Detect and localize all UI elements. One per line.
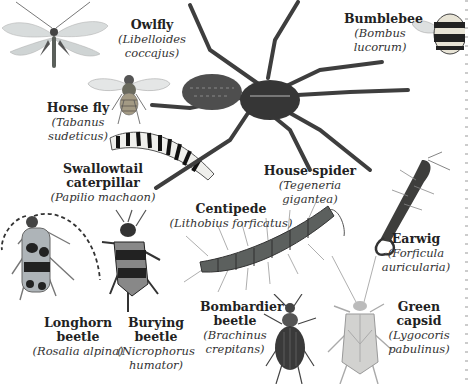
scientific-name: auricularia) <box>376 260 456 274</box>
scientific-name: lucorum) <box>344 40 416 54</box>
common-name: Bumblebee <box>344 12 416 26</box>
scientific-name: (Papilio machaon) <box>28 190 178 204</box>
common-name: Earwig <box>376 232 456 246</box>
scientific-name: humator) <box>116 358 196 372</box>
scientific-name: (Nicrophorus <box>116 344 196 358</box>
burying-beetle-illustration <box>96 204 176 314</box>
common-name: Horse fly <box>38 101 118 115</box>
label-house-spider: House spider (Tegeneria gigantea) <box>250 164 370 206</box>
label-green-capsid: Green capsid (Lygocoris pabulinus) <box>374 300 464 356</box>
scientific-name: (Bombus <box>344 26 416 40</box>
label-swallowtail: Swallowtail caterpillar (Papilio machaon… <box>28 162 178 204</box>
common-name: Bombardier <box>200 300 270 314</box>
scientific-name: (Brachinus <box>200 328 270 342</box>
label-owlfly: Owlfly (Libelloides coccajus) <box>112 18 192 60</box>
label-bombardier-beetle: Bombardier beetle (Brachinus crepitans) <box>200 300 270 356</box>
label-burying-beetle: Burying beetle (Nicrophorus humator) <box>116 316 196 372</box>
common-name: beetle <box>200 314 270 328</box>
label-bumblebee: Bumblebee (Bombus lucorum) <box>344 12 416 54</box>
scientific-name: (Libelloides <box>112 32 192 46</box>
scientific-name: coccajus) <box>112 46 192 60</box>
longhorn-beetle-illustration <box>0 200 104 310</box>
scientific-name: pabulinus) <box>374 342 464 356</box>
scientific-name: sudeticus) <box>38 129 118 143</box>
scientific-name: (Lygocoris <box>374 328 464 342</box>
label-earwig: Earwig (Forficula auricularia) <box>376 232 456 274</box>
scientific-name: (Forficula <box>376 246 456 260</box>
common-name: Burying beetle <box>116 316 196 344</box>
common-name: Swallowtail caterpillar <box>28 162 178 190</box>
scientific-name: (Tabanus <box>38 115 118 129</box>
scientific-name: (Lithobius forficatus) <box>168 216 294 230</box>
common-name: Green capsid <box>374 300 464 328</box>
label-horse-fly: Horse fly (Tabanus sudeticus) <box>38 101 118 143</box>
scientific-name: crepitans) <box>200 342 270 356</box>
label-centipede: Centipede (Lithobius forficatus) <box>168 202 294 230</box>
owlfly-illustration <box>0 0 110 72</box>
common-name: Centipede <box>168 202 294 216</box>
common-name: House spider <box>250 164 370 178</box>
common-name: Owlfly <box>112 18 192 32</box>
